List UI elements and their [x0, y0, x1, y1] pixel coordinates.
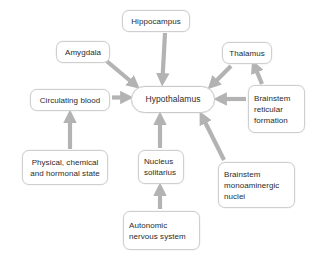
node-thalamus-label: Thalamus: [223, 48, 271, 59]
arrow-hippocampus-to-hypothalamus: [163, 33, 166, 79]
node-autonomic-nervous-system-label: Autonomic nervous system: [124, 220, 199, 242]
node-hippocampus[interactable]: Hippocampus: [122, 10, 190, 32]
node-physical-chemical-hormonal-state-label: Physical, chemical and hormonal state: [23, 157, 107, 179]
arrow-reticular-to-thalamus: [255, 67, 262, 84]
node-circulating-blood[interactable]: Circulating blood: [30, 89, 110, 111]
node-brainstem-reticular-formation-label: Brainstem reticular formation: [249, 93, 304, 126]
node-hypothalamus[interactable]: Hypothalamus: [131, 86, 215, 113]
node-brainstem-monoaminergic-nuclei-label: Brainstem monoaminergic nuclei: [219, 169, 294, 202]
node-amygdala[interactable]: Amygdala: [56, 41, 110, 63]
node-hippocampus-label: Hippocampus: [123, 16, 189, 27]
node-brainstem-reticular-formation[interactable]: Brainstem reticular formation: [248, 85, 305, 133]
node-physical-chemical-hormonal-state[interactable]: Physical, chemical and hormonal state: [22, 150, 108, 185]
arrow-thalamus-to-hypothalamus: [213, 66, 231, 84]
diagram-canvas: Hippocampus Amygdala Thalamus Circulatin…: [0, 0, 312, 266]
node-nucleus-solitarius[interactable]: Nucleus solitarius: [138, 150, 184, 184]
node-nucleus-solitarius-label: Nucleus solitarius: [139, 156, 183, 178]
arrow-monoaminergic-to-hypothalamus: [203, 118, 224, 160]
node-autonomic-nervous-system[interactable]: Autonomic nervous system: [123, 211, 200, 250]
node-thalamus[interactable]: Thalamus: [222, 42, 272, 64]
node-amygdala-label: Amygdala: [57, 47, 109, 58]
node-circulating-blood-label: Circulating blood: [31, 95, 109, 106]
node-brainstem-monoaminergic-nuclei[interactable]: Brainstem monoaminergic nuclei: [218, 162, 295, 208]
node-hypothalamus-label: Hypothalamus: [132, 94, 214, 105]
arrow-amygdala-to-hypothalamus: [103, 58, 134, 84]
